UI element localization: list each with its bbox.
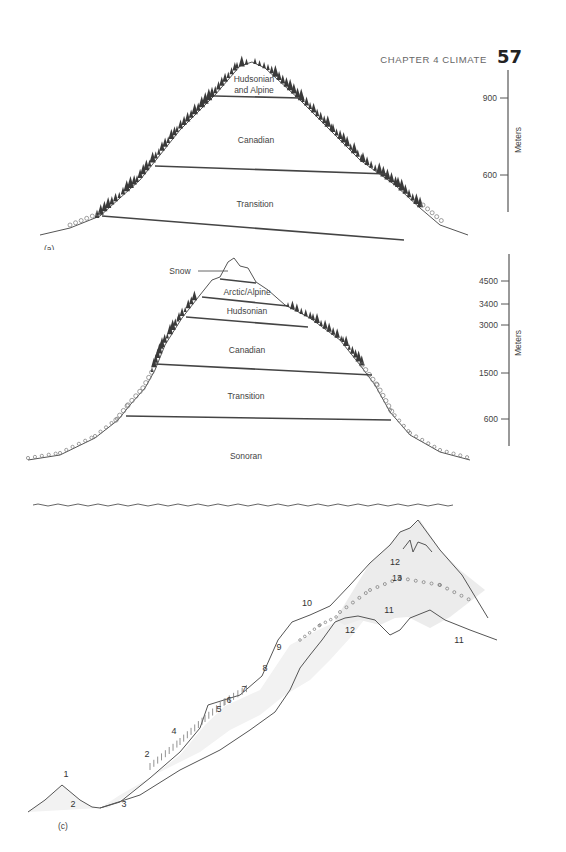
shrub-icon — [452, 452, 455, 455]
upper-peak-fill — [335, 520, 485, 628]
zone-label-sonoran: Sonoran — [230, 451, 262, 461]
conifer-tree-icon — [245, 58, 249, 64]
conifer-tree-icon — [311, 313, 315, 320]
shrub-icon — [71, 445, 74, 448]
zone-num-11a: 11 — [384, 605, 393, 615]
tick-4500: 4500 — [479, 276, 498, 286]
figure-c: 1 2 3 2 4 5 6 7 8 9 10 11 12 13 12 11 (c… — [0, 510, 566, 840]
shrub-icon — [313, 628, 316, 631]
shrub-icon — [426, 207, 430, 211]
zone-num-2a: 2 — [70, 799, 75, 809]
conifer-tree-icon — [369, 161, 373, 168]
shrub-icon — [85, 216, 89, 220]
tick-1500: 1500 — [479, 368, 498, 378]
shrub-icon — [99, 430, 102, 433]
conifer-tree-icon — [118, 192, 121, 198]
zone-num-6: 6 — [226, 695, 231, 705]
shrub-icon — [445, 450, 448, 453]
conifer-tree-icon — [253, 58, 256, 64]
zone-label-transition-b: Transition — [227, 391, 264, 401]
shrub-icon — [74, 221, 78, 225]
zone-label-hudsonian-1: Hudsonian — [234, 74, 275, 84]
conifer-tree-icon — [300, 308, 304, 314]
conifer-tree-icon — [308, 311, 312, 318]
conifer-tree-icon — [314, 313, 320, 323]
zone-num-9: 9 — [276, 642, 281, 652]
shrub-icon — [79, 219, 83, 223]
shrub-icon — [93, 434, 96, 437]
zone-boundary-canadian-b — [155, 364, 372, 375]
zone-num-12a: 13 — [392, 573, 402, 583]
conifer-tree-icon — [331, 327, 335, 335]
conifer-tree-icon — [270, 66, 274, 74]
zone-num-2b: 2 — [144, 749, 149, 759]
tick-600-b: 600 — [484, 414, 498, 424]
tick-3400: 3400 — [479, 299, 498, 309]
zone-boundary-hudsonian — [215, 96, 300, 98]
conifer-tree-icon — [192, 290, 198, 300]
shrub-icon — [77, 442, 80, 445]
figure-a: Hudsonian and Alpine Canadian Transition… — [0, 0, 566, 250]
zone-num-10: 10 — [302, 598, 312, 608]
conifer-tree-icon — [173, 318, 177, 326]
conifer-tree-icon — [175, 125, 179, 132]
shrub-icon — [26, 456, 29, 459]
conifer-tree-icon — [411, 193, 415, 200]
shrub-icon — [90, 436, 93, 439]
zone-label-canadian: Canadian — [238, 135, 275, 145]
shrub-icon — [40, 454, 43, 457]
conifer-tree-icon — [154, 151, 158, 158]
shrub-icon — [329, 618, 332, 621]
conifer-tree-icon — [235, 62, 239, 68]
shrub-icon — [104, 426, 107, 429]
zone-label-canadian-b: Canadian — [229, 345, 266, 355]
conifer-tree-icon — [262, 62, 266, 68]
conifer-tree-icon — [151, 367, 154, 372]
zone-label-transition: Transition — [236, 199, 273, 209]
shrub-icon — [90, 214, 94, 218]
shrub-icon — [439, 219, 443, 223]
conifer-tree-icon — [113, 193, 118, 202]
conifer-tree-icon — [319, 320, 322, 326]
panel-label-c: (c) — [58, 821, 68, 831]
shrub-icon — [421, 438, 424, 441]
zone-label-hudsonian-2: and Alpine — [234, 85, 274, 95]
conifer-tree-icon — [304, 96, 309, 105]
tick-600: 600 — [483, 170, 497, 180]
zone-num-11b: 11 — [454, 635, 463, 645]
conifer-tree-icon — [308, 102, 312, 109]
shrub-icon — [33, 455, 36, 458]
zone-boundary-arctic — [202, 297, 288, 306]
zone-num-12b: 12 — [345, 625, 355, 635]
conifer-tree-icon — [290, 300, 295, 309]
conifer-tree-icon — [258, 60, 261, 66]
conifer-tree-icon — [350, 346, 355, 354]
shrub-icon — [308, 632, 311, 635]
conifer-tree-icon — [213, 86, 217, 93]
snow-callout: Snow — [169, 266, 228, 276]
conifer-tree-icon — [351, 142, 357, 153]
shrub-icon — [430, 211, 434, 215]
zone-boundary-snow — [220, 279, 256, 283]
conifer-tree-icon — [376, 162, 382, 173]
zone-num-1: 1 — [63, 769, 68, 779]
tick-900: 900 — [483, 93, 497, 103]
zone-num-3: 3 — [121, 799, 126, 809]
tick-3000: 3000 — [479, 320, 498, 330]
shrub-icon — [47, 453, 50, 456]
shrub-icon — [465, 456, 468, 459]
conifer-tree-icon — [335, 328, 340, 338]
shrub-icon — [68, 223, 72, 227]
shrub-icon — [433, 445, 436, 448]
zone-boundary-canadian — [155, 166, 388, 174]
conifer-tree-icon — [327, 323, 332, 332]
shrub-icon — [414, 435, 417, 438]
zone-num-4: 4 — [171, 726, 176, 736]
water-line — [33, 504, 453, 506]
zone-num-7: 7 — [241, 684, 246, 694]
shrub-icon — [54, 452, 57, 455]
shrub-icon — [84, 439, 87, 442]
conifer-tree-icon — [227, 72, 231, 78]
shrub-icon — [438, 448, 441, 451]
conifer-tree-icon — [373, 164, 377, 171]
